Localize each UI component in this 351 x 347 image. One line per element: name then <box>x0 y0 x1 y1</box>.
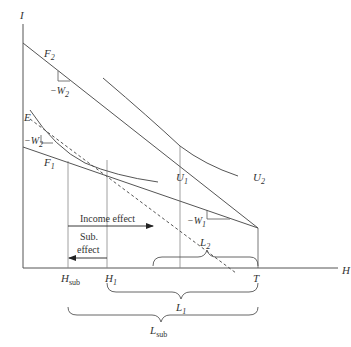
slope-triangles <box>41 71 230 219</box>
t-label: T <box>253 272 260 284</box>
w1-label: −W1 <box>187 215 206 229</box>
sub-effect-label-line1: Sub. <box>80 231 98 242</box>
brace-l2 <box>153 250 258 266</box>
income-effect-label: Income effect <box>80 213 135 224</box>
budget-line-f1 <box>23 147 258 228</box>
brace-l1 <box>107 283 258 299</box>
brace-lsub <box>68 307 258 322</box>
lsub-label: Lsub <box>149 324 167 339</box>
h1-label: H1 <box>104 272 117 287</box>
x-axis-label: H <box>341 264 351 276</box>
f1-label: F1 <box>43 156 55 171</box>
indifference-curve-u2 <box>103 78 238 176</box>
y-axis-label: I <box>19 9 25 21</box>
l1-label: L1 <box>175 301 186 316</box>
labor-supply-diagram: I H F2 F1 E U1 U2 −W2 −W2 −W1 Income eff… <box>0 0 351 347</box>
u2-label: U2 <box>253 171 265 186</box>
sub-effect-label-line2: effect <box>77 244 100 255</box>
w2-top-label: −W2 <box>50 85 69 99</box>
l2-label: L2 <box>199 236 210 251</box>
e-label: E <box>23 111 31 123</box>
u1-label: U1 <box>176 171 188 186</box>
w2-left-label: −W2 <box>24 135 43 149</box>
budget-line-f2 <box>23 43 258 228</box>
braces <box>68 250 258 322</box>
h-sub-label: Hsub <box>60 272 80 287</box>
compensated-budget-line <box>30 119 236 273</box>
